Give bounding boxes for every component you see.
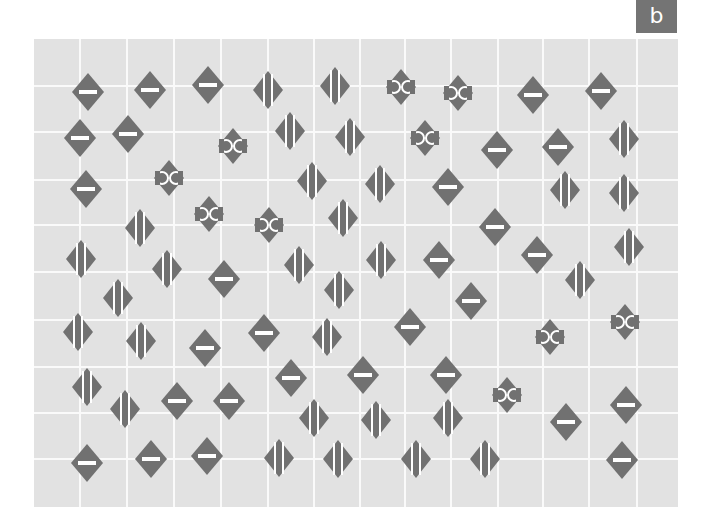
diamond-stripes-icon [110,390,140,428]
diamond-minus-icon [347,356,379,394]
diamond-minus-icon [70,170,102,208]
diamond-rings-icon [154,160,184,196]
diamond-rings-icon [492,377,522,413]
diamond-stripes-icon [323,440,353,478]
grid-line-horizontal [34,85,678,87]
diamond-rings-icon [194,196,224,232]
diamond-stripes-icon [565,261,595,299]
diamond-stripes-icon [125,209,155,247]
diamond-stripes-icon [366,241,396,279]
diamond-rings-icon [410,120,440,156]
diamond-minus-icon [161,382,193,420]
grid-line-horizontal [34,179,678,181]
grid-line-vertical [636,39,638,507]
diamond-stripes-icon [275,112,305,150]
diamond-stripes-icon [126,322,156,360]
diamond-minus-icon [134,71,166,109]
diamond-minus-icon [430,356,462,394]
grid-line-vertical [497,39,499,507]
diamond-stripes-icon [335,118,365,156]
diamond-minus-icon [610,386,642,424]
diamond-minus-icon [479,208,511,246]
diamond-rings-icon [254,207,284,243]
grid-line-horizontal [34,319,678,321]
diamond-stripes-icon [324,271,354,309]
diamond-minus-icon [585,72,617,110]
diamond-minus-icon [208,260,240,298]
diamond-stripes-icon [66,240,96,278]
diamond-stripes-icon [550,171,580,209]
diamond-minus-icon [72,73,104,111]
grid-line-horizontal [34,458,678,460]
diamond-stripes-icon [433,399,463,437]
diamond-minus-icon [248,314,280,352]
diamond-stripes-icon [103,279,133,317]
grid-line-vertical [404,39,406,507]
diamond-minus-icon [213,382,245,420]
diamond-minus-icon [189,329,221,367]
grid-line-vertical [267,39,269,507]
diamond-stripes-icon [264,439,294,477]
diamond-rings-icon [610,304,640,340]
diamond-minus-icon [542,128,574,166]
diamond-stripes-icon [609,174,639,212]
diamond-minus-icon [191,437,223,475]
diamond-stripes-icon [297,162,327,200]
diamond-minus-icon [517,76,549,114]
diamond-minus-icon [135,440,167,478]
diamond-stripes-icon [401,440,431,478]
diamond-stripes-icon [152,250,182,288]
diamond-stripes-icon [299,399,329,437]
panel-label-badge: b [636,0,677,33]
diamond-minus-icon [275,359,307,397]
diamond-stripes-icon [328,199,358,237]
diamond-minus-icon [521,236,553,274]
diamond-stripes-icon [320,67,350,105]
diamond-stripes-icon [365,165,395,203]
diamond-rings-icon [443,75,473,111]
diamond-minus-icon [550,403,582,441]
diamond-minus-icon [481,131,513,169]
diamond-minus-icon [112,115,144,153]
diamond-rings-icon [218,128,248,164]
diamond-minus-icon [432,168,464,206]
diamond-stripes-icon [312,318,342,356]
grid-line-vertical [126,39,128,507]
diamond-rings-icon [386,69,416,105]
diamond-minus-icon [394,308,426,346]
diamond-stripes-icon [361,401,391,439]
diamond-stripes-icon [253,71,283,109]
diamond-stripes-icon [284,246,314,284]
diamond-stripes-icon [63,313,93,351]
diamond-minus-icon [606,441,638,479]
diamond-stripes-icon [609,120,639,158]
diamond-minus-icon [423,241,455,279]
diamond-minus-icon [71,444,103,482]
diamond-rings-icon [535,319,565,355]
diamond-minus-icon [455,282,487,320]
diamond-minus-icon [64,119,96,157]
diamond-stripes-icon [614,228,644,266]
diamond-stripes-icon [72,368,102,406]
diamond-stripes-icon [470,440,500,478]
diamond-minus-icon [192,66,224,104]
